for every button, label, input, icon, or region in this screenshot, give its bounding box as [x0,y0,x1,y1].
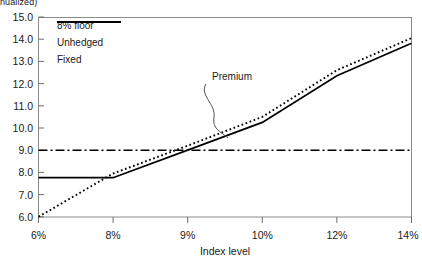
x-tick-label: 6% [31,229,46,241]
legend-label-fixed: Fixed [57,54,81,65]
x-tick-label: 12% [326,229,347,241]
x-tick-label: 14% [397,229,418,241]
premium-leader-line [204,84,228,138]
x-axis-title: Index level [200,245,250,257]
chart-legend: 8% floor Unhedged Fixed [57,17,103,68]
chart-container: nualized) 15.0 14.0 13.0 12.0 11.0 10.0 … [0,0,422,259]
x-tick-label: 9% [180,229,195,241]
annotation-premium: Premium [212,71,252,82]
legend-item-unhedged: Unhedged [57,34,103,51]
x-tick-label: 8% [106,229,121,241]
legend-swatch-dashdot-icon [57,17,121,27]
legend-item-fixed: Fixed [57,51,103,68]
y-tick-marks [39,17,45,217]
x-tick-label: 10% [252,229,273,241]
x-tick-marks [39,217,412,223]
legend-label-unhedged: Unhedged [57,37,103,48]
